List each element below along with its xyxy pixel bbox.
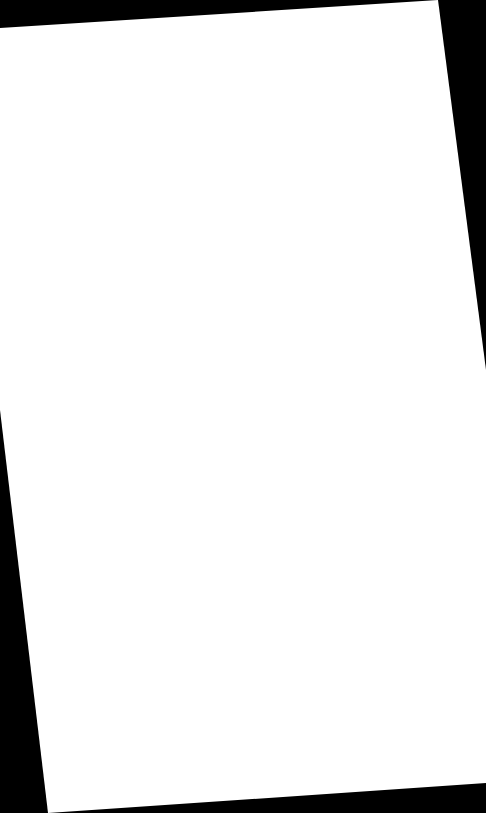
blank-paper-sheet (0, 0, 486, 813)
paper-sheet-svg (0, 0, 486, 813)
black-background (0, 0, 486, 813)
